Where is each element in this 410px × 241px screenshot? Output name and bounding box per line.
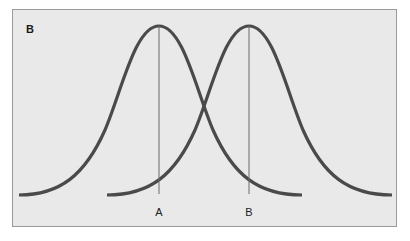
figure-caption-clipped	[0, 235, 410, 241]
curve-a	[19, 26, 302, 195]
marker-label-a: A	[149, 206, 169, 218]
marker-label-b: B	[239, 206, 259, 218]
distribution-curves	[0, 0, 410, 241]
